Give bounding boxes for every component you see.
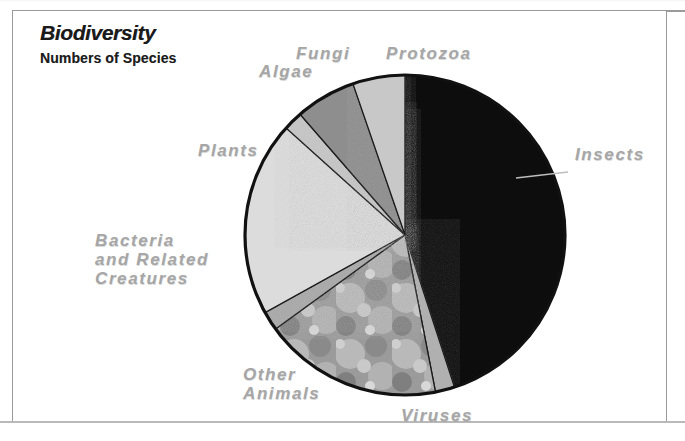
figure-frame-right-bleed (666, 10, 685, 12)
slice-label-other-animals: Other Animals (243, 365, 320, 403)
slice-label-plants: Plants (198, 141, 259, 160)
slice-label-protozoa: Protozoa (386, 44, 472, 63)
page-title: Biodiversity (40, 22, 340, 43)
title-block: Biodiversity Numbers of Species (40, 22, 340, 65)
figure-frame (12, 10, 667, 423)
slice-label-fungi: Fungi (296, 44, 350, 63)
scan-edge-line (0, 0, 685, 2)
slice-label-insects: Insects (575, 145, 645, 164)
slice-label-bacteria: Bacteria and Related Creatures (95, 231, 209, 288)
slice-label-viruses: Viruses (401, 406, 473, 425)
slice-label-algae: Algae (259, 62, 313, 81)
figure-frame-bottom-bleed (0, 421, 685, 423)
